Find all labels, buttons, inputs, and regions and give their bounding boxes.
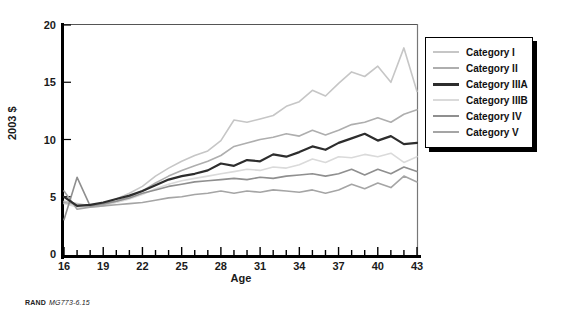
x-tick-label: 43 — [411, 260, 423, 272]
x-tick-label: 28 — [215, 260, 227, 272]
series-line-category-iv — [64, 167, 417, 220]
legend-label: Category IV — [466, 111, 522, 122]
legend-label: Category V — [466, 127, 519, 138]
figure: 0510152016192225283134374043 2003 $ Age … — [0, 0, 561, 321]
legend-label: Category IIIA — [466, 79, 528, 90]
legend-label: Category II — [466, 63, 518, 74]
x-axis-line — [61, 255, 421, 258]
legend-line-swatch — [433, 115, 459, 117]
x-tick-label: 25 — [176, 260, 188, 272]
x-tick-label: 16 — [58, 260, 70, 272]
x-tick-label: 19 — [97, 260, 109, 272]
legend-label: Category I — [466, 47, 515, 58]
y-axis-title: 2003 $ — [6, 106, 18, 140]
legend-item-category-iv: Category IV — [433, 108, 532, 124]
legend-item-category-iiia: Category IIIA — [433, 76, 532, 92]
source-id: MG773-6.15 — [49, 299, 90, 306]
source-brand: RAND — [25, 299, 46, 306]
y-tick-label: 20 — [44, 19, 56, 31]
x-tick-label: 34 — [293, 260, 306, 272]
y-axis-line — [61, 23, 64, 259]
y-tick-label: 0 — [50, 248, 56, 260]
source-citation: RANDMG773-6.15 — [25, 299, 90, 306]
legend-label: Category IIIB — [466, 95, 528, 106]
legend-item-category-i: Category I — [433, 44, 532, 60]
legend-item-category-v: Category V — [433, 124, 532, 140]
y-tick-label: 5 — [50, 191, 56, 203]
legend-item-category-iiib: Category IIIB — [433, 92, 532, 108]
x-tick-label: 31 — [254, 260, 266, 272]
x-tick-label: 40 — [372, 260, 384, 272]
legend-line-swatch — [433, 67, 459, 69]
y-tick-label: 15 — [44, 76, 56, 88]
x-tick-label: 22 — [136, 260, 148, 272]
y-tick-label: 10 — [44, 134, 56, 146]
x-tick-label: 37 — [332, 260, 344, 272]
legend-line-swatch — [433, 131, 459, 133]
series-line-category-v — [64, 176, 417, 209]
legend-box: Category ICategory IICategory IIIACatego… — [425, 37, 533, 148]
legend-line-swatch — [433, 99, 459, 101]
legend-line-swatch — [433, 51, 459, 53]
legend-rows: Category ICategory IICategory IIIACatego… — [433, 44, 532, 140]
series-line-category-i — [64, 48, 417, 206]
legend-line-swatch — [433, 83, 459, 86]
x-axis-title: Age — [64, 272, 418, 284]
legend-item-category-ii: Category II — [433, 60, 532, 76]
